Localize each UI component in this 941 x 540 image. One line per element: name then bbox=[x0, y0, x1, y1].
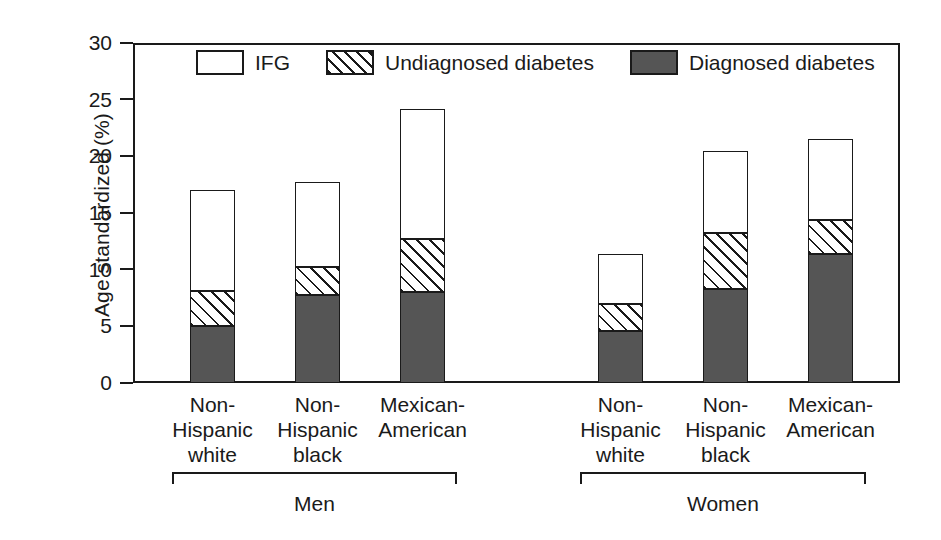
legend-item-undiagnosed-diabetes: Undiagnosed diabetes bbox=[326, 50, 594, 75]
legend-item-diagnosed-diabetes: Diagnosed diabetes bbox=[630, 50, 875, 75]
x-category-label-line: Non- bbox=[257, 392, 379, 417]
x-category-label-line: Hispanic bbox=[152, 417, 274, 442]
x-category-label: Non-Hispanicblack bbox=[665, 392, 787, 467]
x-category-label-line: American bbox=[362, 417, 484, 442]
y-tick-label: 15 bbox=[70, 201, 112, 225]
plot-area bbox=[133, 43, 900, 383]
bar-segment-ifg[interactable] bbox=[598, 254, 643, 304]
x-category-label-line: Hispanic bbox=[257, 417, 379, 442]
x-category-label: Non-Hispanicwhite bbox=[560, 392, 682, 467]
group-bracket bbox=[580, 472, 866, 484]
y-tick-mark bbox=[120, 268, 133, 270]
group-bracket bbox=[172, 472, 457, 484]
x-category-label-line: black bbox=[665, 442, 787, 467]
bar-segment-diagnosed-diabetes[interactable] bbox=[598, 331, 643, 383]
bar-segment-ifg[interactable] bbox=[190, 190, 235, 291]
bar-segment-diagnosed-diabetes[interactable] bbox=[808, 254, 853, 383]
x-category-label: Non-Hispanicblack bbox=[257, 392, 379, 467]
group-label: Women bbox=[580, 492, 866, 516]
y-tick-label: 0 bbox=[70, 371, 112, 395]
bar-segment-diagnosed-diabetes[interactable] bbox=[295, 295, 340, 383]
bar-segment-undiagnosed-diabetes[interactable] bbox=[598, 304, 643, 331]
bar-segment-undiagnosed-diabetes[interactable] bbox=[295, 267, 340, 294]
x-category-label-line: Hispanic bbox=[665, 417, 787, 442]
stacked-bar[interactable] bbox=[400, 109, 445, 383]
x-category-label-line: Mexican- bbox=[770, 392, 892, 417]
x-category-label-line: Hispanic bbox=[560, 417, 682, 442]
x-category-label: Mexican-American bbox=[362, 392, 484, 442]
bar-segment-diagnosed-diabetes[interactable] bbox=[703, 289, 748, 383]
x-category-label-line: Non- bbox=[152, 392, 274, 417]
bar-segment-diagnosed-diabetes[interactable] bbox=[400, 292, 445, 383]
bar-segment-ifg[interactable] bbox=[400, 109, 445, 239]
x-category-label: Non-Hispanicwhite bbox=[152, 392, 274, 467]
stacked-bar[interactable] bbox=[295, 182, 340, 383]
group-label: Men bbox=[172, 492, 457, 516]
bar-segment-diagnosed-diabetes[interactable] bbox=[190, 326, 235, 383]
legend-label-ifg: IFG bbox=[255, 51, 290, 75]
x-category-label: Mexican-American bbox=[770, 392, 892, 442]
stacked-bar[interactable] bbox=[808, 139, 853, 383]
x-category-label-line: American bbox=[770, 417, 892, 442]
legend-label-undiagnosed-diabetes: Undiagnosed diabetes bbox=[385, 51, 594, 75]
x-category-label-line: black bbox=[257, 442, 379, 467]
y-tick-mark bbox=[120, 212, 133, 214]
bar-segment-undiagnosed-diabetes[interactable] bbox=[703, 233, 748, 289]
y-tick-label: 5 bbox=[70, 314, 112, 338]
bar-segment-undiagnosed-diabetes[interactable] bbox=[190, 291, 235, 326]
x-category-label-line: white bbox=[152, 442, 274, 467]
legend-label-diagnosed-diabetes: Diagnosed diabetes bbox=[689, 51, 875, 75]
y-tick-label: 30 bbox=[70, 31, 112, 55]
bar-segment-undiagnosed-diabetes[interactable] bbox=[400, 239, 445, 292]
bar-segment-undiagnosed-diabetes[interactable] bbox=[808, 220, 853, 254]
legend-swatch-undiagnosed-icon bbox=[326, 50, 374, 75]
stacked-bar[interactable] bbox=[703, 151, 748, 383]
y-tick-mark bbox=[120, 382, 133, 384]
y-tick-mark bbox=[120, 42, 133, 44]
legend-swatch-ifg-icon bbox=[196, 50, 244, 75]
stacked-bar[interactable] bbox=[190, 190, 235, 383]
y-tick-mark bbox=[120, 325, 133, 327]
chart-legend: IFG Undiagnosed diabetes Diagnosed diabe… bbox=[196, 50, 875, 75]
bar-segment-ifg[interactable] bbox=[295, 182, 340, 267]
bar-segment-ifg[interactable] bbox=[703, 151, 748, 234]
y-tick-label: 20 bbox=[70, 144, 112, 168]
x-category-label-line: Non- bbox=[665, 392, 787, 417]
y-tick-label: 25 bbox=[70, 88, 112, 112]
x-category-label-line: white bbox=[560, 442, 682, 467]
stacked-bar[interactable] bbox=[598, 254, 643, 383]
legend-item-ifg: IFG bbox=[196, 50, 290, 75]
y-tick-label: 10 bbox=[70, 258, 112, 282]
x-category-label-line: Mexican- bbox=[362, 392, 484, 417]
x-category-label-line: Non- bbox=[560, 392, 682, 417]
y-tick-mark bbox=[120, 98, 133, 100]
legend-swatch-diagnosed-icon bbox=[630, 50, 678, 75]
bar-segment-ifg[interactable] bbox=[808, 139, 853, 219]
chart-figure: Age standardized (%) 302520151050 IFG Un… bbox=[0, 0, 941, 540]
y-tick-mark bbox=[120, 155, 133, 157]
